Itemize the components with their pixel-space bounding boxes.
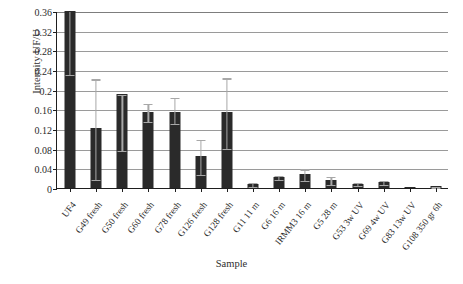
error-bar-cap [301,169,310,170]
error-bar [96,79,97,180]
y-tick-label: 0.2 [40,85,53,96]
error-bar-cap [66,75,75,76]
error-bar [122,95,123,152]
error-bar-cap [222,78,231,79]
bar-slot [109,12,135,188]
y-tick-label: 0.04 [35,164,53,175]
y-tick-label: 0.12 [35,125,53,136]
x-tick-mark [122,188,123,192]
error-bar-cap [379,185,388,186]
x-tick-mark [384,188,385,192]
bar-slot [344,12,370,188]
plot-area: 00.040.080.120.160.20.240.280.320.36 [56,12,448,189]
x-tick-mark [279,188,280,192]
y-tick-label: 0.28 [35,46,53,57]
error-bar-cap [275,176,284,177]
error-bar-cap [170,98,179,99]
error-bar [69,12,70,75]
error-bar [148,104,149,122]
x-tick-mark [175,188,176,192]
x-tick-mark [70,188,71,192]
x-axis-title: Sample [0,258,463,269]
bar-slot [240,12,266,188]
error-bar-cap [196,140,205,141]
bar-slot [397,12,423,188]
x-tick-mark [227,188,228,192]
x-tick-mark [96,188,97,192]
error-bar-cap [327,177,336,178]
bar-slot [318,12,344,188]
error-bar-cap [301,181,310,182]
bar-slot [135,12,161,188]
x-tick-mark [358,188,359,192]
error-bar-cap [92,79,101,80]
bar [143,112,154,188]
error-bar-cap [379,181,388,182]
error-bar-cap [144,104,153,105]
y-tick-label: 0.32 [35,26,53,37]
y-tick-mark [53,189,57,190]
error-bar [305,169,306,181]
x-tick-mark [331,188,332,192]
bar-slot [266,12,292,188]
bar-slot [371,12,397,188]
bar-slot [188,12,214,188]
error-bar [174,98,175,124]
y-tick-label: 0.08 [35,144,53,155]
bar-slot [292,12,318,188]
bar-slot [214,12,240,188]
error-bar-cap [196,175,205,176]
error-bar [226,78,227,148]
y-tick-label: 0.16 [35,105,53,116]
bar-slot [57,12,83,188]
error-bar-cap [353,183,362,184]
error-bar-cap [118,151,127,152]
x-tick-mark [410,188,411,192]
bar-slot [423,12,449,188]
x-tick-mark [436,188,437,192]
y-tick-label: 0.24 [35,66,53,77]
x-tick-mark [305,188,306,192]
chart-figure: Intensity UF/U 00.040.080.120.160.20.240… [0,0,463,284]
bar-slot [83,12,109,188]
bar-slot [162,12,188,188]
error-bar-cap [327,185,336,186]
error-bar-cap [275,180,284,181]
x-tick-mark [253,188,254,192]
error-bar [200,140,201,175]
error-bar-cap [118,95,127,96]
x-tick-mark [201,188,202,192]
error-bar-cap [222,149,231,150]
x-tick-mark [148,188,149,192]
error-bar-cap [248,183,257,184]
error-bar-cap [144,122,153,123]
y-tick-label: 0.36 [35,7,53,18]
error-bar-cap [92,180,101,181]
y-tick-label: 0 [47,184,52,195]
error-bar-cap [170,124,179,125]
